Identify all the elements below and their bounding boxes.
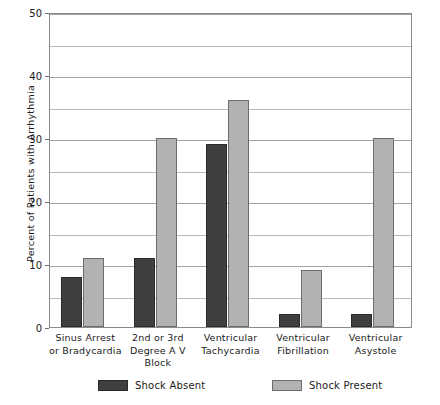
bar-group <box>195 14 268 327</box>
legend-swatch-present <box>272 380 302 391</box>
bar-chart: Percent of Patients with Arrhythmia 0102… <box>0 0 440 405</box>
y-axis-tick-label: 40 <box>0 71 42 82</box>
x-axis-category-line: Asystole <box>333 345 419 358</box>
legend-item: Shock Absent <box>98 380 205 391</box>
x-axis-category-line: Ventricular <box>333 332 419 345</box>
y-axis-tick-label: 30 <box>0 134 42 145</box>
bar-shock-absent <box>351 314 372 327</box>
y-axis-tick-label: 50 <box>0 8 42 19</box>
bar-shock-present <box>83 258 104 327</box>
bar-group <box>50 14 123 327</box>
legend-label: Shock Present <box>309 380 382 391</box>
plot-area <box>49 13 412 328</box>
bar-shock-present <box>373 138 394 327</box>
bar-group <box>268 14 341 327</box>
bar-shock-present <box>301 270 322 327</box>
y-axis-tick-label: 10 <box>0 260 42 271</box>
bar-group <box>123 14 196 327</box>
chart-legend: Shock AbsentShock Present <box>0 380 440 400</box>
bar-shock-present <box>156 138 177 327</box>
bar-shock-absent <box>206 144 227 327</box>
legend-label: Shock Absent <box>135 380 205 391</box>
y-axis-tick-label: 0 <box>0 323 42 334</box>
bar-shock-absent <box>279 314 300 327</box>
x-axis-category-line: Block <box>115 357 201 370</box>
y-axis-tick-mark <box>45 328 49 329</box>
bar-group <box>340 14 413 327</box>
legend-swatch-absent <box>98 380 128 391</box>
bar-shock-absent <box>134 258 155 327</box>
legend-item: Shock Present <box>272 380 382 391</box>
y-axis-tick-label: 20 <box>0 197 42 208</box>
bar-shock-absent <box>61 277 82 327</box>
x-axis-category-label: VentricularAsystole <box>333 332 419 357</box>
bar-shock-present <box>228 100 249 327</box>
bars-layer <box>50 14 411 327</box>
